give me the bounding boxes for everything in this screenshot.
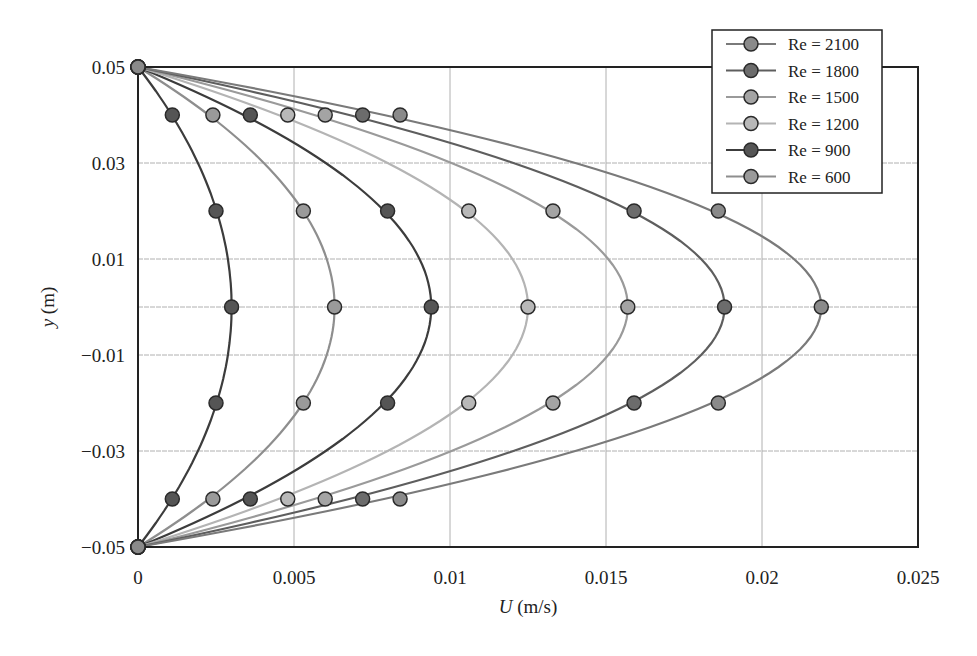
legend-label: Re = 1800 bbox=[788, 62, 859, 81]
data-point-marker bbox=[546, 396, 560, 410]
data-point-marker bbox=[814, 300, 828, 314]
velocity-profile-chart: 00.0050.010.0150.020.025 0.050.030.01−0.… bbox=[0, 0, 977, 656]
data-point-marker bbox=[281, 492, 295, 506]
data-point-marker bbox=[546, 204, 560, 218]
data-point-marker bbox=[356, 108, 370, 122]
x-tick-label: 0.005 bbox=[273, 567, 316, 588]
data-point-marker bbox=[328, 300, 342, 314]
legend-marker-swatch bbox=[744, 64, 758, 78]
legend-label: Re = 2100 bbox=[788, 35, 859, 54]
legend-label: Re = 1200 bbox=[788, 115, 859, 134]
data-point-marker bbox=[243, 108, 257, 122]
data-point-marker bbox=[462, 204, 476, 218]
data-point-marker bbox=[424, 300, 438, 314]
data-point-marker bbox=[711, 204, 725, 218]
data-point-marker bbox=[206, 108, 220, 122]
y-tick-label: −0.03 bbox=[81, 441, 125, 462]
data-point-marker bbox=[627, 396, 641, 410]
data-point-marker bbox=[225, 300, 239, 314]
data-point-marker bbox=[296, 396, 310, 410]
y-tick-label: 0.03 bbox=[92, 153, 125, 174]
y-axis-label-symbol: y bbox=[37, 318, 58, 329]
legend-marker-swatch bbox=[744, 143, 758, 157]
data-point-marker bbox=[356, 492, 370, 506]
x-tick-label: 0.025 bbox=[897, 567, 940, 588]
data-point-marker bbox=[209, 204, 223, 218]
legend-label: Re = 600 bbox=[788, 168, 850, 187]
data-point-marker bbox=[165, 492, 179, 506]
legend-marker-swatch bbox=[744, 37, 758, 51]
x-tick-label: 0.015 bbox=[585, 567, 628, 588]
data-point-marker bbox=[711, 396, 725, 410]
x-axis-ticks: 00.0050.010.0150.020.025 bbox=[133, 567, 939, 588]
data-point-marker bbox=[393, 492, 407, 506]
y-tick-label: 0.01 bbox=[92, 249, 125, 270]
y-axis-label: y (m) bbox=[37, 287, 59, 330]
x-tick-label: 0.01 bbox=[433, 567, 466, 588]
legend-label: Re = 900 bbox=[788, 141, 850, 160]
data-point-marker bbox=[243, 492, 257, 506]
legend-marker-swatch bbox=[744, 170, 758, 184]
y-axis-ticks: 0.050.030.01−0.01−0.03−0.05 bbox=[81, 57, 125, 558]
data-point-marker bbox=[621, 300, 635, 314]
legend-marker-swatch bbox=[744, 90, 758, 104]
data-point-marker bbox=[206, 492, 220, 506]
data-point-marker bbox=[318, 492, 332, 506]
data-point-marker bbox=[281, 108, 295, 122]
legend: Re = 2100Re = 1800Re = 1500Re = 1200Re =… bbox=[712, 30, 882, 193]
data-point-marker bbox=[131, 60, 145, 74]
data-point-marker bbox=[381, 396, 395, 410]
data-point-marker bbox=[381, 204, 395, 218]
data-point-marker bbox=[718, 300, 732, 314]
data-point-marker bbox=[462, 396, 476, 410]
data-point-marker bbox=[627, 204, 641, 218]
data-point-marker bbox=[131, 540, 145, 554]
data-point-marker bbox=[209, 396, 223, 410]
x-tick-label: 0 bbox=[133, 567, 143, 588]
data-point-marker bbox=[393, 108, 407, 122]
data-point-marker bbox=[296, 204, 310, 218]
data-point-marker bbox=[165, 108, 179, 122]
x-axis-label-unit: (m/s) bbox=[512, 596, 557, 618]
data-point-marker bbox=[521, 300, 535, 314]
y-tick-label: −0.01 bbox=[81, 345, 125, 366]
y-axis-label-unit: (m) bbox=[37, 287, 59, 319]
data-point-marker bbox=[318, 108, 332, 122]
y-tick-label: 0.05 bbox=[92, 57, 125, 78]
y-tick-label: −0.05 bbox=[81, 537, 125, 558]
legend-label: Re = 1500 bbox=[788, 88, 859, 107]
legend-marker-swatch bbox=[744, 117, 758, 131]
x-axis-label: U (m/s) bbox=[499, 596, 558, 618]
x-tick-label: 0.02 bbox=[745, 567, 778, 588]
